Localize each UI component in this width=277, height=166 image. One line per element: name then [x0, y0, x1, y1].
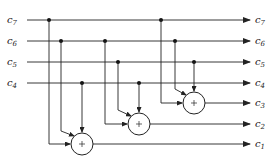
- output-label-c4: c4: [255, 77, 265, 90]
- adder-c1: [71, 133, 93, 155]
- adder-c3: [183, 92, 205, 114]
- bus-lines: [27, 20, 250, 83]
- adder-c1-wiring: [47, 18, 84, 144]
- input-label-c6: c6: [7, 35, 18, 48]
- output-label-c6: c6: [255, 35, 266, 48]
- output-label-c5: c5: [255, 56, 266, 69]
- adder-c2: [128, 113, 150, 135]
- output-labels: c7 c6 c5 c4 c3 c2 c1: [255, 14, 266, 151]
- input-labels: c7 c6 c5 c4: [7, 14, 18, 90]
- adder-c3-wiring: [159, 18, 196, 103]
- input-label-c7: c7: [7, 14, 18, 27]
- output-label-c7: c7: [255, 14, 266, 27]
- output-label-c3: c3: [255, 97, 266, 110]
- output-label-c1: c1: [255, 138, 265, 151]
- adder-c2-wiring: [103, 39, 141, 124]
- input-label-c5: c5: [7, 56, 18, 69]
- output-label-c2: c2: [255, 118, 266, 131]
- input-label-c4: c4: [7, 77, 17, 90]
- parity-check-circuit: c7 c6 c5 c4: [0, 0, 277, 166]
